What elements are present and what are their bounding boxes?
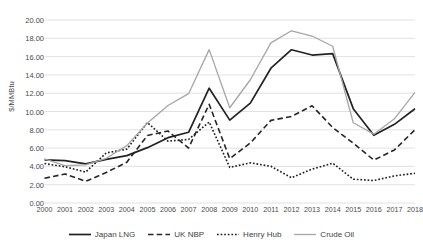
dotted-line-icon — [217, 230, 239, 239]
line-chart: $/MMBtu 20.0018.0016.0014.0012.0010.008.… — [0, 0, 423, 246]
x-tick-label: 2009 — [222, 205, 238, 214]
legend-label: Crude Oil — [320, 230, 354, 239]
x-tick-label: 2004 — [119, 205, 135, 214]
x-tick-label: 2014 — [325, 205, 341, 214]
legend-item-crude-oil[interactable]: Crude Oil — [294, 230, 354, 239]
x-tick-label: 2016 — [366, 205, 382, 214]
x-tick-label: 2018 — [407, 205, 423, 214]
legend-label: UK NBP — [174, 230, 204, 239]
x-tick-label: 2007 — [181, 205, 197, 214]
x-tick-label: 2011 — [263, 205, 278, 214]
x-tick-label: 2012 — [284, 205, 300, 214]
light-solid-line-icon — [294, 230, 316, 239]
x-tick-label: 2002 — [78, 205, 94, 214]
solid-line-icon — [69, 230, 91, 239]
dashed-line-icon — [148, 230, 170, 239]
x-tick-label: 2003 — [98, 205, 114, 214]
x-tick-label: 2001 — [57, 205, 73, 214]
x-tick-label: 2008 — [201, 205, 217, 214]
x-tick-label: 2006 — [160, 205, 176, 214]
x-tick-label: 2000 — [37, 205, 53, 214]
legend-label: Henry Hub — [243, 230, 281, 239]
x-tick-label: 2015 — [345, 205, 361, 214]
series-line-henry-hub — [45, 122, 416, 180]
legend-item-uk-nbp[interactable]: UK NBP — [148, 230, 204, 239]
legend-item-japan-lng[interactable]: Japan LNG — [69, 230, 135, 239]
series-line-crude-oil — [45, 31, 416, 166]
chart-legend: Japan LNGUK NBPHenry HubCrude Oil — [0, 226, 423, 242]
legend-label: Japan LNG — [95, 230, 135, 239]
x-axis-tick-labels: 2000200120022003200420052006200720082009… — [0, 205, 423, 219]
legend-item-henry-hub[interactable]: Henry Hub — [217, 230, 281, 239]
x-tick-label: 2017 — [386, 205, 402, 214]
x-tick-label: 2010 — [242, 205, 258, 214]
x-tick-label: 2013 — [304, 205, 320, 214]
x-tick-label: 2005 — [139, 205, 155, 214]
